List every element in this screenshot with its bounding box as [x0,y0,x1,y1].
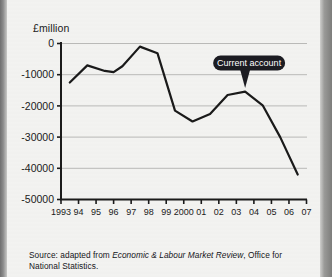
x-tick-label: 07 [301,207,311,217]
y-tick-label: -40000 [21,162,54,174]
y-tick-label: -50000 [21,193,54,205]
x-tick-label: 01 [196,207,206,217]
y-tick-labels: 0-10000-20000-30000-40000-50000 [21,37,54,205]
source-prefix: Source: adapted from [29,250,112,260]
x-tick-label: 2000 [174,207,194,217]
x-tick-labels: 1993949596979899200001020304050607 [51,207,312,217]
x-tick-label: 06 [284,207,294,217]
callout-label: Current account [217,58,282,68]
x-tick-label: 02 [214,207,224,217]
chart-svg: 0-10000-20000-30000-40000-50000 19939495… [0,0,332,277]
x-tick-label: 03 [231,207,241,217]
y-tick-label: -10000 [21,68,54,80]
y-tick-label: -30000 [21,131,54,143]
x-tick-label: 96 [109,207,119,217]
x-tick-label: 94 [74,207,84,217]
source-publication-title: Economic & Labour Market Review [112,250,243,260]
annotation-callout-current-account: Current account [213,56,285,88]
y-tick-label: -20000 [21,100,54,112]
x-tick-label: 97 [126,207,136,217]
x-tick-label: 98 [144,207,154,217]
x-tick-label: 04 [249,207,259,217]
callout-pointer [240,70,250,89]
line-chart: 0-10000-20000-30000-40000-50000 19939495… [0,0,332,277]
x-tick-label: 99 [161,207,171,217]
x-tick-label: 1993 [51,207,71,217]
y-tick-label: 0 [48,37,54,49]
source-note: Source: adapted from Economic & Labour M… [29,250,304,272]
x-tick-label: 95 [91,207,101,217]
x-tick-label: 05 [266,207,276,217]
figure-page: £million 0-10000-20000-30000-40000-50000… [0,0,332,277]
